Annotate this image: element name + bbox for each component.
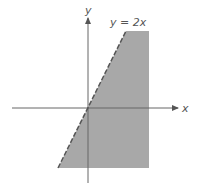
x-axis-label: x	[181, 102, 189, 115]
inequality-graph: x y y = 2x	[0, 0, 200, 188]
line-equation-label: y = 2x	[109, 16, 147, 29]
shaded-region	[58, 31, 149, 168]
y-axis-label: y	[84, 4, 92, 17]
